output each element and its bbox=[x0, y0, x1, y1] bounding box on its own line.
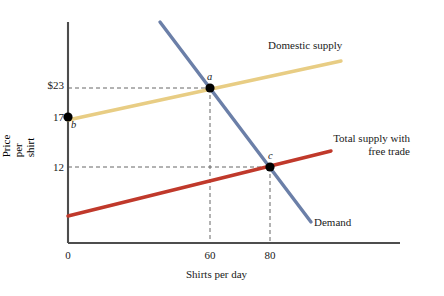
total-supply-label-line2: free trade bbox=[314, 145, 410, 157]
y-axis-title-container: Price per shirt bbox=[10, 96, 26, 196]
y-axis-title: Price per shirt bbox=[0, 135, 36, 158]
point-label-b: b bbox=[71, 119, 76, 131]
leader-lines-point-a bbox=[68, 88, 210, 243]
x-tick-label-60: 60 bbox=[198, 249, 222, 261]
x-tick-label-0: 0 bbox=[58, 249, 78, 261]
point-marker-c bbox=[265, 162, 274, 171]
x-axis-title: Shirts per day bbox=[186, 268, 247, 280]
demand-curve bbox=[160, 22, 311, 222]
domestic-supply-curve bbox=[68, 61, 341, 120]
y-tick-label-12: 12 bbox=[28, 161, 64, 173]
leader-lines-point-c bbox=[68, 167, 270, 243]
point-label-c: c bbox=[268, 150, 273, 162]
x-tick-label-80: 80 bbox=[258, 249, 282, 261]
total-supply-label-line1: Total supply with bbox=[314, 132, 410, 144]
y-tick-label-23: $23 bbox=[28, 79, 64, 91]
point-marker-a bbox=[205, 83, 214, 92]
supply-demand-chart: $23 17 12 0 60 80 Shirts per day Price p… bbox=[0, 0, 444, 296]
y-tick-label-17: 17 bbox=[28, 111, 64, 123]
total-supply-curve bbox=[68, 151, 331, 216]
demand-label: Demand bbox=[314, 216, 351, 228]
domestic-supply-label: Domestic supply bbox=[268, 39, 342, 51]
point-label-a: a bbox=[207, 71, 212, 83]
